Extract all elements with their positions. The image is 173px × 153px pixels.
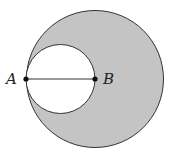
point-a <box>23 76 28 81</box>
label-a: A <box>4 70 17 88</box>
label-b: B <box>102 70 114 88</box>
circles-figure: A B <box>0 0 173 153</box>
diagram: A B <box>0 0 173 153</box>
point-b <box>92 76 97 81</box>
